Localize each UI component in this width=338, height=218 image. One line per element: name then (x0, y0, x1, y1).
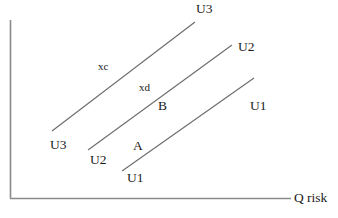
x-axis-label: Q risk (294, 191, 327, 205)
point-label-b: B (158, 99, 167, 113)
curve-label-u3-bottom: U3 (50, 138, 67, 152)
figure-canvas (0, 0, 338, 218)
curve-label-u1-bottom: U1 (127, 171, 144, 185)
curve-label-u2-top: U2 (238, 40, 255, 54)
cross-label-xd: xd (139, 82, 150, 93)
indifference-curve-figure: U3 U2 U1 U3 U2 U1 A B xc xd Q risk (0, 0, 338, 218)
cross-label-xc: xc (98, 61, 108, 72)
curve-label-u2-bottom: U2 (90, 153, 107, 167)
curve-label-u3-top: U3 (196, 2, 213, 16)
curve-label-u1-right: U1 (250, 99, 267, 113)
indifference-curve-u3 (52, 22, 195, 131)
point-label-a: A (133, 139, 143, 153)
